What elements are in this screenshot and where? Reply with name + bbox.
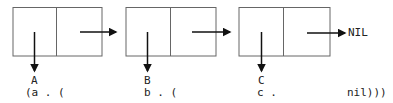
expr-part-2: b . ( xyxy=(144,87,177,99)
nil-terminal-label: NIL xyxy=(348,27,368,39)
expr-part-1: (a . ( xyxy=(25,87,65,99)
expr-closing: nil))) xyxy=(347,87,387,99)
cons-cell-1 xyxy=(13,8,116,72)
cons-cell-2 xyxy=(126,8,230,72)
cons-cell-3 xyxy=(239,8,345,72)
expr-part-3: c . xyxy=(257,87,277,99)
